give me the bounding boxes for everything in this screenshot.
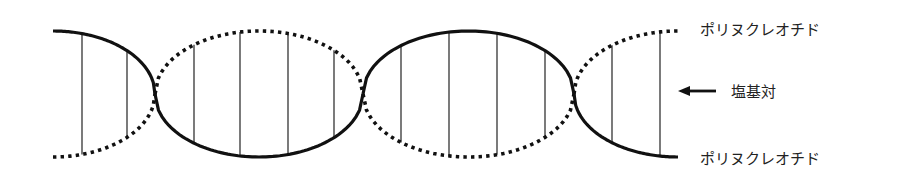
base-pair-label: 塩基対 [731,83,776,101]
arrow-head [678,86,690,96]
strand-1-segment-4-bottom [574,94,678,157]
strand-2-segment-3-bottom [363,94,574,157]
strand-1-segment-2-bottom [155,94,363,157]
dna-helix-diagram: ポリヌクレオチド 塩基対 ポリヌクレオチド [0,0,908,186]
strand-2-segment-4-top [574,31,678,94]
strand-2-segment-2-top [155,31,363,94]
top-strand-label: ポリヌクレオチド [700,21,820,39]
strands [53,31,678,157]
strand-1-segment-1-top [53,31,155,94]
strand-2-segment-1-bottom [53,94,155,157]
bottom-strand-label: ポリヌクレオチド [700,150,820,168]
arrow-left-icon [678,86,716,96]
strand-1-segment-3-top [363,31,574,94]
